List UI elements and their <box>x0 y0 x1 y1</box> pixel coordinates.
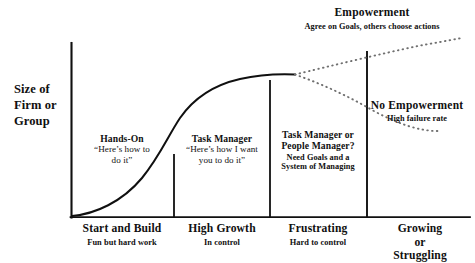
band-line-start-and-build-1: “Here’s how to <box>94 144 150 155</box>
empowerment-subtitle: Agree on Goals, others choose actions <box>305 22 440 32</box>
band-line-start-and-build-2: do it” <box>94 155 150 166</box>
band-extra-frustrating-1: Need Goals and a <box>281 153 354 163</box>
stage-sub-frustrating: Hard to control <box>290 238 346 248</box>
band-description-frustrating: Task Manager or People Manager? Need Goa… <box>281 129 354 172</box>
band-line-high-growth-1: “Here’s how I want <box>186 144 258 155</box>
band-head-high-growth: Task Manager <box>186 133 258 144</box>
no-empowerment-title: No Empowerment <box>371 99 464 113</box>
band-head-start-and-build: Hands-On <box>94 133 150 144</box>
band-head-frustrating: Task Manager or People Manager? <box>281 129 354 152</box>
band-line-high-growth-2: you to do it” <box>186 155 258 166</box>
stage-name-frustrating: Frustrating <box>289 222 348 236</box>
no-empowerment-subtitle: High failure rate <box>387 114 447 124</box>
empowerment-title: Empowerment <box>334 6 409 20</box>
band-description-start-and-build: Hands-On “Here’s how to do it” <box>94 133 150 166</box>
stage-name-growing-or-struggling: Growing or Struggling <box>393 222 448 263</box>
stage-name-high-growth: High Growth <box>188 222 255 236</box>
empowerment-dotted-path <box>295 38 462 75</box>
band-extra-frustrating-2: System of Managing <box>281 162 354 172</box>
band-description-high-growth: Task Manager “Here’s how I want you to d… <box>186 133 258 166</box>
stage-name-start-and-build: Start and Build <box>83 222 162 236</box>
stage-sub-start-and-build: Fun but hard work <box>87 238 157 248</box>
y-axis-label: Size of Firm or Group <box>14 82 57 129</box>
stage-sub-high-growth: In control <box>204 238 240 248</box>
